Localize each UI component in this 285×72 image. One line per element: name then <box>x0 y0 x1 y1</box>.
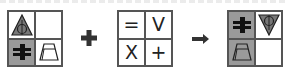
inverted-triangle-circle-icon <box>258 14 280 36</box>
trapezoid-icon <box>231 41 253 63</box>
rule-cell-top-right: V <box>145 11 172 39</box>
result-cell-bottom-left <box>228 39 255 67</box>
arrow-right-icon <box>192 33 210 45</box>
rule-cell-bottom-left: X <box>118 39 145 67</box>
rule-grid: = V X + <box>117 10 173 67</box>
left-cell-top-left <box>8 11 35 39</box>
plus-operator-icon <box>80 29 98 47</box>
left-cell-top-right <box>35 11 62 39</box>
x-symbol: X <box>125 43 138 62</box>
result-grid <box>227 10 283 67</box>
not-equal-blob-icon <box>231 14 253 36</box>
rule-cell-top-left: = <box>118 11 145 39</box>
rule-cell-bottom-right: + <box>145 39 172 67</box>
cropped-text-strip <box>0 0 285 3</box>
left-grid <box>7 10 63 67</box>
not-equal-blob-icon <box>11 41 33 63</box>
result-cell-top-left <box>228 11 255 39</box>
left-cell-bottom-left <box>8 39 35 67</box>
result-cell-top-right <box>255 11 282 39</box>
left-cell-bottom-right <box>35 39 62 67</box>
equals-symbol: = <box>124 15 140 34</box>
trapezoid-icon <box>38 41 60 63</box>
result-cell-bottom-right <box>255 39 282 67</box>
plus-symbol: + <box>151 43 167 62</box>
triangle-circle-icon <box>11 14 33 36</box>
v-symbol: V <box>152 15 165 34</box>
